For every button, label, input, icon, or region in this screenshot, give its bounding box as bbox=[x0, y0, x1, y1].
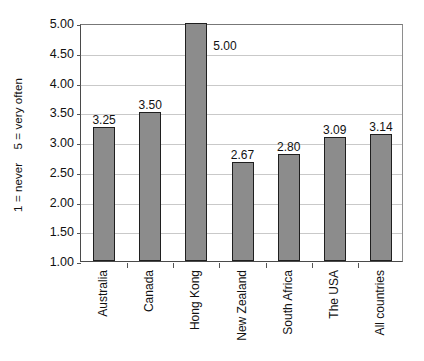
bar bbox=[185, 23, 207, 261]
x-axis-category-label: South Africa bbox=[265, 270, 311, 360]
x-axis-category-label-text: Hong Kong bbox=[188, 270, 202, 330]
bar-value-label: 5.00 bbox=[213, 39, 236, 53]
x-axis-category-label: Canada bbox=[126, 270, 172, 360]
y-axis-tick-label: 1.00 bbox=[50, 255, 74, 269]
bar bbox=[370, 134, 392, 261]
y-axis-tickmark bbox=[77, 204, 81, 205]
y-axis-tickmark bbox=[77, 25, 81, 26]
x-axis-category-label-text: South Africa bbox=[281, 270, 295, 335]
bar bbox=[232, 162, 254, 261]
bar-value-label: 2.80 bbox=[266, 140, 312, 154]
y-axis-tick-label: 4.00 bbox=[50, 77, 74, 91]
gridline bbox=[81, 85, 402, 86]
y-axis-tick-label: 3.50 bbox=[50, 106, 74, 120]
x-axis-category-label-text: All countries bbox=[373, 270, 387, 335]
y-axis-tickmark bbox=[77, 55, 81, 56]
y-axis-title: 1 = never 5 = very often bbox=[0, 0, 36, 290]
x-axis-category-label: Australia bbox=[80, 270, 126, 360]
bar-value-label: 3.14 bbox=[358, 120, 404, 134]
bar bbox=[93, 127, 115, 261]
y-axis-tick-labels: 5.004.504.003.503.002.502.001.501.00 bbox=[36, 0, 78, 361]
y-axis-tick-label: 5.00 bbox=[50, 17, 74, 31]
y-axis-tickmark bbox=[77, 233, 81, 234]
gridline bbox=[81, 55, 402, 56]
y-axis-tick-label: 2.00 bbox=[50, 196, 74, 210]
plot-area: 3.253.505.002.672.803.093.14 bbox=[80, 24, 403, 262]
gridline bbox=[81, 114, 402, 115]
y-axis-tickmark bbox=[77, 174, 81, 175]
bar-value-label: 3.50 bbox=[127, 98, 173, 112]
y-axis-tick-label: 4.50 bbox=[50, 47, 74, 61]
y-axis-tickmark bbox=[77, 144, 81, 145]
y-axis-title-text: 1 = never 5 = very often bbox=[12, 78, 24, 212]
bar-chart: 1 = never 5 = very often 5.004.504.003.5… bbox=[0, 0, 424, 361]
y-axis-tick-label: 2.50 bbox=[50, 166, 74, 180]
bar bbox=[139, 112, 161, 261]
x-axis-category-label-text: New Zealand bbox=[235, 270, 249, 341]
x-axis-category-label: All countries bbox=[357, 270, 403, 360]
x-axis-category-label: Hong Kong bbox=[172, 270, 218, 360]
x-axis-category-label-text: The USA bbox=[327, 270, 341, 319]
x-axis-category-label-text: Australia bbox=[96, 270, 110, 317]
y-axis-tick-label: 1.50 bbox=[50, 225, 74, 239]
x-axis-category-labels: AustraliaCanadaHong KongNew ZealandSouth… bbox=[80, 262, 403, 361]
bar-value-label: 3.25 bbox=[81, 113, 127, 127]
bar-value-label: 2.67 bbox=[220, 148, 266, 162]
x-axis-category-label: New Zealand bbox=[219, 270, 265, 360]
x-axis-category-label: The USA bbox=[311, 270, 357, 360]
y-axis-tick-label: 3.00 bbox=[50, 136, 74, 150]
bar-value-label: 3.09 bbox=[312, 123, 358, 137]
y-axis-tickmark bbox=[77, 85, 81, 86]
x-axis-category-label-text: Canada bbox=[142, 270, 156, 312]
gridline bbox=[81, 144, 402, 145]
bar bbox=[324, 137, 346, 261]
bar bbox=[278, 154, 300, 261]
plot-inner: 3.253.505.002.672.803.093.14 bbox=[81, 25, 402, 261]
